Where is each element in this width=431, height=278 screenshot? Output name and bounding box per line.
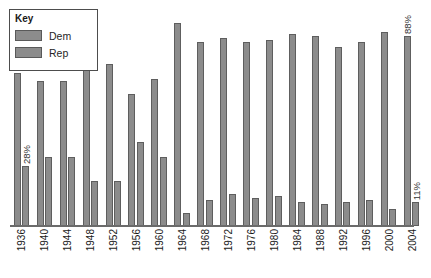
bar-group bbox=[174, 10, 190, 226]
bar-dem bbox=[174, 23, 181, 226]
bar-dem bbox=[37, 81, 44, 226]
x-axis-tick-label: 1940 bbox=[39, 229, 50, 251]
bar-value-label: 28% bbox=[20, 145, 31, 164]
bar-rep bbox=[160, 157, 167, 226]
bar-dem bbox=[128, 94, 135, 226]
x-axis-tick-label: 1968 bbox=[200, 229, 211, 251]
x-axis-tick-label: 1984 bbox=[292, 229, 303, 251]
bar-dem bbox=[151, 79, 158, 226]
bar-dem bbox=[358, 42, 365, 226]
bar-dem bbox=[312, 36, 319, 226]
legend-label-rep: Rep bbox=[49, 47, 68, 59]
bar-value-label: 11% bbox=[410, 182, 421, 200]
bar-rep bbox=[366, 200, 373, 226]
legend-swatch-rep bbox=[15, 47, 42, 58]
bar-dem bbox=[381, 32, 388, 226]
bar-group: 88%11% bbox=[404, 10, 420, 226]
x-axis-tick-label: 2004 bbox=[407, 229, 418, 251]
bar-dem bbox=[197, 42, 204, 226]
bar-rep bbox=[68, 157, 75, 226]
bar-group bbox=[243, 10, 259, 226]
bar-dem bbox=[60, 81, 67, 226]
x-axis-tick-label: 1960 bbox=[154, 229, 165, 251]
x-axis-tick-label: 1944 bbox=[62, 229, 73, 251]
x-axis-tick-label: 1992 bbox=[338, 229, 349, 251]
bar-group bbox=[335, 10, 351, 226]
bar-value-label: 88% bbox=[402, 15, 413, 34]
x-axis-tick-label: 1936 bbox=[16, 229, 27, 251]
x-axis-tick-label: 1980 bbox=[269, 229, 280, 251]
chart-legend: Key Dem Rep bbox=[9, 9, 98, 71]
bar-rep bbox=[321, 204, 328, 226]
bar-rep bbox=[389, 209, 396, 226]
x-axis-tick-label: 1976 bbox=[246, 229, 257, 251]
bar-chart: Key Dem Rep 71%28%88%11% 193619401944194… bbox=[0, 0, 431, 278]
bar-rep bbox=[45, 157, 52, 226]
bar-rep bbox=[114, 181, 121, 226]
bar-rep bbox=[412, 202, 419, 226]
x-axis-tick-label: 1956 bbox=[131, 229, 142, 251]
bar-group bbox=[289, 10, 305, 226]
bar-rep bbox=[206, 200, 213, 226]
bar-dem bbox=[266, 40, 273, 226]
bar-group bbox=[266, 10, 282, 226]
bar-group bbox=[106, 10, 122, 226]
bar-group bbox=[358, 10, 374, 226]
bar-dem bbox=[243, 42, 250, 226]
x-axis-labels: 1936194019441948195219561960196419681972… bbox=[10, 229, 414, 277]
bar-rep bbox=[137, 142, 144, 226]
bar-rep bbox=[275, 196, 282, 226]
bar-group bbox=[312, 10, 328, 226]
x-axis-tick-label: 2000 bbox=[384, 229, 395, 251]
legend-title: Key bbox=[15, 13, 92, 25]
bar-rep bbox=[298, 202, 305, 226]
bar-dem bbox=[289, 34, 296, 226]
bar-group bbox=[128, 10, 144, 226]
bar-dem bbox=[83, 62, 90, 226]
x-axis-tick-label: 1952 bbox=[108, 229, 119, 251]
legend-swatch-dem bbox=[15, 30, 42, 41]
bar-rep bbox=[343, 202, 350, 226]
legend-item-rep: Rep bbox=[15, 44, 92, 61]
x-axis-tick-label: 1988 bbox=[315, 229, 326, 251]
bar-dem bbox=[220, 38, 227, 226]
bar-group bbox=[220, 10, 236, 226]
legend-item-dem: Dem bbox=[15, 27, 92, 44]
x-axis-tick-label: 1948 bbox=[85, 229, 96, 251]
x-axis-tick-label: 1964 bbox=[177, 229, 188, 251]
bar-group bbox=[197, 10, 213, 226]
bar-dem bbox=[106, 64, 113, 226]
legend-label-dem: Dem bbox=[49, 30, 71, 42]
bar-dem bbox=[335, 47, 342, 226]
x-axis-tick-label: 1972 bbox=[223, 229, 234, 251]
x-axis-line bbox=[10, 225, 414, 227]
bar-rep bbox=[252, 198, 259, 226]
bar-group bbox=[381, 10, 397, 226]
bar-group bbox=[151, 10, 167, 226]
bar-rep bbox=[91, 181, 98, 226]
bar-rep bbox=[22, 166, 29, 226]
bar-rep bbox=[229, 194, 236, 226]
x-axis-tick-label: 1996 bbox=[361, 229, 372, 251]
